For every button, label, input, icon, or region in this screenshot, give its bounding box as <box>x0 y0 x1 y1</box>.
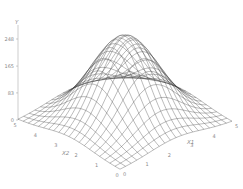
z-tick-label: 83 <box>8 90 14 96</box>
x2-tick-label: 5 <box>13 122 16 128</box>
axes: 083165248012345012345 <box>4 25 238 178</box>
mesh-line-x2 <box>115 118 227 166</box>
x2-tick-label: 1 <box>95 162 98 168</box>
x1-tick-label: 4 <box>213 133 216 139</box>
mesh-line-x1 <box>52 71 154 150</box>
mesh-line-x2 <box>69 35 181 136</box>
z-tick-label: 165 <box>4 63 14 69</box>
mesh-line-x1 <box>18 119 120 169</box>
mesh-line-x2 <box>110 115 222 163</box>
x2-tick-label: 4 <box>34 132 37 138</box>
surface-mesh <box>18 35 232 169</box>
mesh-line-x1 <box>74 35 176 137</box>
mesh-line-x2 <box>74 40 186 140</box>
mesh-line-x1 <box>35 108 137 160</box>
x1-tick-label: 0 <box>123 171 126 177</box>
mesh-line-x1 <box>24 116 126 166</box>
mesh-line-x1 <box>63 48 165 144</box>
x1-tick-label: 2 <box>168 152 171 158</box>
x2-axis-label: X2 <box>61 150 70 156</box>
mesh-line-x2 <box>105 109 217 160</box>
z-axis-label: Y <box>15 19 19 25</box>
mesh-line-x1 <box>85 38 187 134</box>
mesh-line-x1 <box>57 58 159 146</box>
x1-axis-label: X1 <box>186 139 194 145</box>
mesh-line-x2 <box>33 74 145 125</box>
z-tick-label: 248 <box>4 36 14 42</box>
x2-tick-label: 0 <box>115 172 118 178</box>
x1-tick-label: 5 <box>235 123 238 129</box>
x2-tick-label: 3 <box>54 142 57 148</box>
x2-tick-label: 2 <box>75 152 78 158</box>
x1-tick-label: 1 <box>145 161 148 167</box>
mesh-line-x1 <box>91 44 193 132</box>
surface-plot: 083165248012345012345 Y X1 X2 <box>0 0 243 189</box>
